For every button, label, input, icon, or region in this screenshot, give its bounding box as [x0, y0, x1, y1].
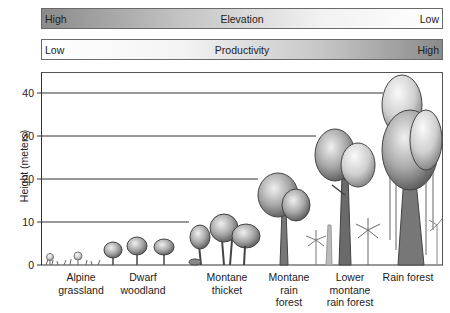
zone-label-alpine-grassland: Alpine grassland — [55, 271, 107, 296]
zone-label-lower-montane-rain-forest: Lower montane rain forest — [320, 271, 380, 309]
y-axis-ticks — [37, 93, 41, 265]
zone-label-montane-thicket: Montane thicket — [200, 271, 254, 296]
zone-label-line: thicket — [200, 284, 254, 297]
zone-label-line: montane — [320, 284, 380, 297]
palm-frond — [429, 219, 442, 265]
palm-frond — [356, 218, 380, 265]
rain-forest-trees — [382, 75, 442, 265]
zone-label-line: rain — [262, 284, 316, 297]
zone-label-montane-rain-forest: Montane rain forest — [262, 271, 316, 309]
alpine-grassland-plants — [46, 252, 100, 265]
zone-label-line: woodland — [116, 284, 170, 297]
zone-label-line: forest — [262, 296, 316, 309]
zone-label-line: Alpine — [55, 271, 107, 284]
zone-label-line: Rain forest — [378, 271, 438, 284]
zone-label-line: Lower — [320, 271, 380, 284]
montane-rain-forest-trees — [258, 173, 326, 265]
montane-thicket-trees — [189, 214, 260, 265]
zone-label-line: grassland — [55, 284, 107, 297]
zone-label-rain-forest: Rain forest — [378, 271, 438, 284]
zone-label-line: Montane — [262, 271, 316, 284]
zone-label-line: Montane — [200, 271, 254, 284]
zone-label-line: rain forest — [320, 296, 380, 309]
zone-label-line: Dwarf — [116, 271, 170, 284]
lower-montane-rain-forest-trees — [315, 129, 380, 265]
dwarf-woodland-trees — [104, 237, 174, 265]
zone-label-dwarf-woodland: Dwarf woodland — [116, 271, 170, 296]
palm-frond — [306, 230, 326, 265]
vegetation-illustration — [0, 0, 450, 313]
